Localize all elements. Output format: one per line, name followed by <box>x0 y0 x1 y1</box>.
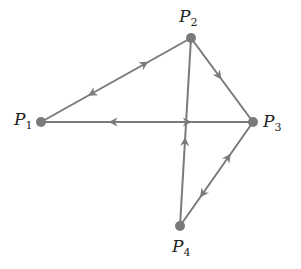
arrowhead-icon <box>213 70 222 80</box>
graph-canvas <box>0 0 301 269</box>
edge-p3-p4 <box>180 122 253 226</box>
node-label-p1: P1 <box>14 111 32 131</box>
node-p3 <box>248 117 258 127</box>
node-label-p4: P4 <box>172 238 190 258</box>
node-label-p3: P3 <box>263 113 281 133</box>
edge-p1-p2 <box>41 38 191 122</box>
node-p2 <box>186 33 196 43</box>
edge-p4-p2 <box>180 38 191 226</box>
edge-p2-p3 <box>191 38 253 122</box>
node-label-p2: P2 <box>179 8 197 28</box>
arrowhead-icon <box>200 187 209 197</box>
node-p4 <box>175 221 185 231</box>
node-p1 <box>36 117 46 127</box>
arrowhead-icon <box>222 154 231 164</box>
